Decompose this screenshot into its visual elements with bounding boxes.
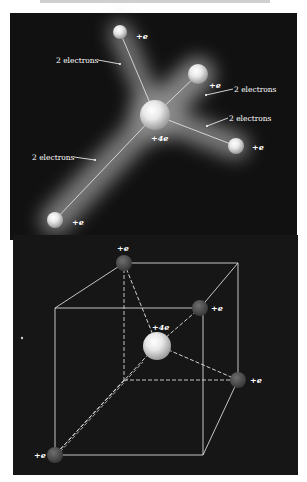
outer-atom-lower-left-charge: +e	[72, 217, 84, 227]
bond-label-upper-right: 2 electrons	[234, 85, 277, 94]
corner-atom-back-top-left	[116, 255, 132, 271]
outer-atom-upper-right	[188, 64, 208, 84]
cube-center-atom-charge: +4e	[152, 322, 169, 332]
outer-atom-upper-right-charge: +e	[209, 80, 221, 90]
outer-atom-top-charge: +e	[136, 31, 148, 41]
outer-atom-right-charge: +e	[252, 142, 264, 152]
center-atom	[140, 100, 170, 130]
cube-center-atom	[143, 332, 171, 360]
stray-speck	[21, 337, 23, 339]
outer-atom-top	[113, 25, 127, 39]
corner-atom-front-bottom-left	[47, 447, 63, 463]
corner-atom-front-top-right-charge: +e	[211, 303, 223, 313]
tetrahedral-bond-diagram: +4e +e +e +e +e 2 electrons 2 electrons …	[10, 13, 297, 240]
silicon-bonding-figure: +4e +e +e +e +e 2 electrons 2 electrons …	[0, 0, 307, 482]
bond-label-top: 2 electrons	[56, 56, 99, 65]
cropped-caption-text	[40, 0, 270, 3]
corner-atom-front-bottom-left-charge: +e	[34, 450, 46, 460]
center-atom-charge: +4e	[151, 133, 168, 143]
bond-label-right: 2 electrons	[229, 114, 272, 123]
corner-atom-front-top-right	[192, 300, 208, 316]
outer-atom-right	[228, 138, 244, 154]
cubic-lattice-diagram: +4e +e +e +e +e	[13, 235, 298, 475]
corner-atom-back-bottom-right-charge: +e	[250, 375, 262, 385]
corner-atom-back-bottom-right	[230, 372, 246, 388]
outer-atom-lower-left	[47, 212, 63, 228]
bond-label-lower-left: 2 electrons	[32, 153, 75, 162]
corner-atom-back-top-left-charge: +e	[117, 243, 129, 253]
